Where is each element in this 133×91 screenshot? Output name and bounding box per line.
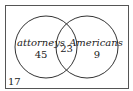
venn-diagram: attorneys 45 23 Americans 9 17	[0, 0, 133, 91]
outside-count: 17	[8, 76, 21, 87]
attorneys-label: attorneys	[17, 37, 65, 48]
americans-only-count: 9	[94, 49, 100, 60]
attorneys-only-count: 45	[35, 49, 48, 60]
americans-label: Americans	[68, 37, 123, 48]
venn-svg: attorneys 45 23 Americans 9 17	[0, 0, 133, 91]
